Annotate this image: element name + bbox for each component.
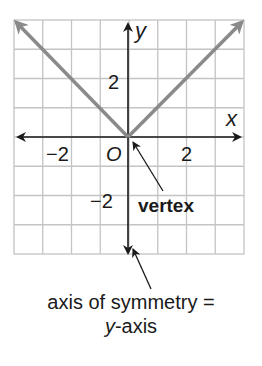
y-axis-label: y [135,20,146,42]
caption-line-2: y-axis [0,314,262,338]
caption-y-variable: y [105,315,115,337]
x-tick-neg2: −2 [46,144,69,164]
x-tick-2: 2 [181,144,192,164]
caption-line-1: axis of symmetry = [0,290,262,314]
x-axis-label: x [226,108,237,130]
vertex-label: vertex [138,196,194,215]
axis-of-symmetry-caption: axis of symmetry = y-axis [0,290,262,338]
axis-pointer-arrow [133,249,151,289]
y-tick-neg2: −2 [90,191,113,211]
origin-label: O [106,144,122,164]
y-tick-2: 2 [108,72,119,92]
caption-axis-text: -axis [115,315,157,337]
